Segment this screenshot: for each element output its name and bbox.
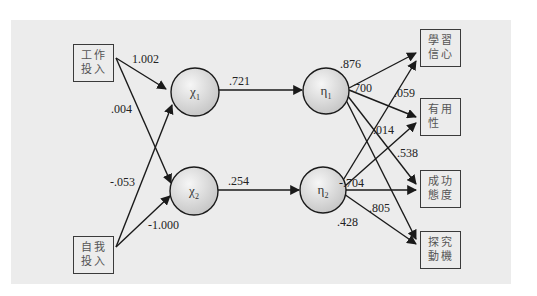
weight-self-chi1: -.053 [110,175,135,190]
box-text: 工作 [81,49,107,63]
box-text: 投入 [81,255,107,269]
node-chi1-label: χ1 [175,84,215,102]
arrow-eta2-conf [342,61,416,182]
weight-work-chi2: .004 [111,102,132,117]
box-text: 學習 [428,34,454,48]
node-eta2-label: η2 [303,182,343,200]
weight-eta1-mot: .805 [369,201,390,216]
weight-eta1-use: .700 [351,81,372,96]
weight-work-chi1: 1.002 [132,52,159,67]
box-text: 態度 [428,189,454,203]
box-text: 投入 [81,63,107,77]
weight-eta2-att: -.704 [339,176,364,191]
weight-chi1-eta1: .721 [229,74,250,89]
weight-eta2-use: .014 [373,123,394,138]
box-text: 自我 [81,241,107,255]
node-chi2-label: χ2 [174,183,214,201]
box-text: 性 [428,117,441,131]
box-text: 有用 [428,103,454,117]
box-text: 成功 [428,175,454,189]
box-success-attitude: 成功 態度 [420,170,461,208]
weight-eta2-conf: .059 [394,86,415,101]
box-work-engagement: 工作 投入 [73,44,114,82]
node-eta1-label: η1 [306,83,346,101]
weight-eta1-conf: .876 [340,57,361,72]
weight-eta1-att: .538 [397,146,418,161]
box-learning-confidence: 學習 信心 [420,29,461,67]
box-text: 動機 [428,250,454,264]
arrow-work-chi2 [116,58,171,183]
weight-self-chi2: -1.000 [148,218,179,233]
box-text: 探究 [428,236,454,250]
box-inquiry-motivation: 探究 動機 [420,231,461,269]
box-text: 信心 [428,48,454,62]
weight-eta2-mot: .428 [337,215,358,230]
box-self-engagement: 自我 投入 [73,236,114,274]
weight-chi2-eta2: .254 [228,174,249,189]
box-usefulness: 有用 性 [420,98,461,136]
